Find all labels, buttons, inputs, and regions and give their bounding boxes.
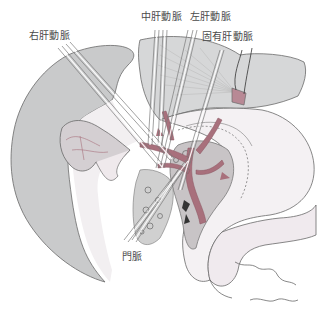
label-middle-hepatic-artery: 中肝動脈 — [141, 11, 182, 22]
anatomy-illustration: 右肝動脈 中肝動脈 左肝動脈 固有肝動脈 門脈 — [0, 0, 319, 319]
label-proper-hepatic-artery: 固有肝動脈 — [202, 31, 253, 42]
label-left-hepatic-artery: 左肝動脈 — [190, 11, 231, 22]
label-portal-vein: 門脈 — [122, 251, 142, 262]
anatomy-drawing — [0, 0, 319, 319]
label-right-hepatic-artery: 右肝動脈 — [29, 30, 70, 41]
omentum-edge-1 — [235, 262, 296, 285]
omentum-edge-2 — [250, 299, 298, 301]
